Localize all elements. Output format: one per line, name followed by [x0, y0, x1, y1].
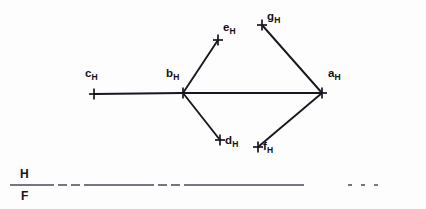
label-d-letter: d [225, 134, 232, 146]
label-a-letter: a [328, 67, 334, 79]
segment-g-a [262, 25, 322, 93]
label-dh: dH [225, 135, 238, 147]
segments-group [94, 25, 322, 147]
label-eh: eH [223, 22, 235, 34]
label-e-subscript: H [230, 26, 236, 36]
segment-c-b [94, 93, 183, 94]
label-fh: fH [263, 141, 273, 153]
label-bh: bH [166, 68, 179, 80]
label-gh: gH [267, 11, 280, 23]
label-b-letter: b [166, 67, 173, 79]
label-c-letter: c [85, 67, 91, 79]
label-c-subscript: H [92, 72, 98, 82]
figure-canvas [0, 0, 426, 209]
fold-line-label-f: F [21, 190, 28, 202]
segment-b-e [183, 40, 218, 93]
descriptive-geometry-figure: cHbHeHgHdHfHaH H F [0, 0, 426, 209]
label-ch: cH [85, 68, 97, 80]
segment-b-d [183, 93, 220, 140]
point-ticks-group [89, 20, 327, 153]
label-a-subscript: H [335, 72, 341, 82]
label-b-subscript: H [173, 72, 179, 82]
label-e-letter: e [223, 21, 229, 33]
fold-line-label-h: H [20, 168, 29, 180]
label-f-subscript: H [267, 145, 273, 155]
label-g-letter: g [267, 10, 274, 22]
label-g-subscript: H [274, 15, 280, 25]
label-ah: aH [328, 68, 340, 80]
point-tick-ch [89, 89, 99, 100]
segment-f-a [258, 93, 322, 147]
label-d-subscript: H [232, 139, 238, 149]
